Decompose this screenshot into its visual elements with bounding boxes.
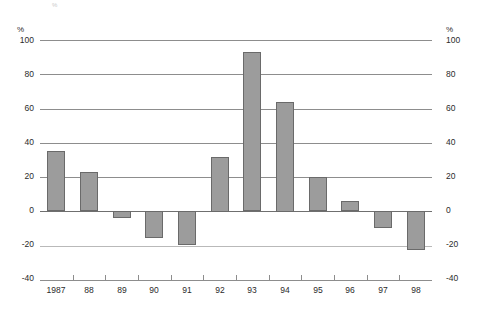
y-tick-label-right-20: 20 (446, 172, 455, 181)
bar-94 (276, 102, 294, 212)
y-tick-label-right-40: 40 (446, 138, 455, 147)
x-label-94: 94 (280, 286, 289, 295)
bar-95 (309, 177, 327, 211)
y-tick-label-left-neg40: -40 (0, 274, 34, 283)
x-label-96: 96 (345, 286, 354, 295)
bar-88 (80, 172, 98, 211)
y-tick-label-left-80: 80 (0, 70, 34, 79)
gridline-20 (40, 177, 432, 178)
x-axis-tick (105, 275, 106, 280)
y-tick-label-right-80: 80 (446, 70, 455, 79)
x-label-92: 92 (215, 286, 224, 295)
y-tick-label-left-100: 100 (0, 36, 34, 45)
y-tick-label-right-neg40: -40 (446, 274, 458, 283)
plot-area (40, 40, 432, 280)
x-label-1987: 1987 (47, 286, 66, 295)
bar-93 (243, 52, 261, 211)
y-tick-label-right-100: 100 (446, 36, 460, 45)
x-label-89: 89 (117, 286, 126, 295)
bar-98 (407, 211, 425, 250)
x-axis-tick (334, 275, 335, 280)
x-axis-tick (203, 275, 204, 280)
y-tick-label-right-60: 60 (446, 104, 455, 113)
x-label-95: 95 (313, 286, 322, 295)
gridline-40 (40, 143, 432, 144)
bar-91 (178, 211, 196, 245)
x-axis-tick (171, 275, 172, 280)
bar-97 (374, 211, 392, 228)
x-label-98: 98 (411, 286, 420, 295)
gridline-100 (40, 40, 432, 41)
y-axis-right-unit: % (446, 26, 453, 34)
y-tick-label-right-neg20: -20 (446, 240, 458, 249)
y-axis-right: % 100 80 60 40 20 0 -20 -40 (440, 0, 479, 320)
x-axis-tick (236, 275, 237, 280)
bar-90 (145, 211, 163, 238)
y-axis-left-unit: % (17, 26, 24, 34)
x-label-97: 97 (378, 286, 387, 295)
x-axis-tick (367, 275, 368, 280)
x-axis-tick (269, 275, 270, 280)
x-axis-tick (399, 275, 400, 280)
y-tick-label-left-40: 40 (0, 138, 34, 147)
y-tick-label-left-20: 20 (0, 172, 34, 181)
y-tick-label-left-60: 60 (0, 104, 34, 113)
x-label-91: 91 (182, 286, 191, 295)
x-label-88: 88 (84, 286, 93, 295)
bar-89 (113, 211, 131, 218)
gridline-60 (40, 109, 432, 110)
gridline-80 (40, 74, 432, 75)
bar-92 (211, 157, 229, 212)
y-tick-label-left-0: 0 (0, 206, 34, 215)
y-tick-label-left-neg20: -20 (0, 240, 34, 249)
x-label-93: 93 (247, 286, 256, 295)
x-axis-tick (73, 275, 74, 280)
x-axis-category-labels: 19878889909192939495969798 (40, 286, 432, 300)
x-axis-tick (301, 275, 302, 280)
y-axis-left: % 100 80 60 40 20 0 -20 -40 (0, 0, 34, 320)
bar-1987 (47, 151, 65, 211)
y-tick-label-right-0: 0 (446, 206, 451, 215)
x-axis-tick (138, 275, 139, 280)
bar-96 (341, 201, 359, 211)
gridline--20 (40, 246, 432, 247)
gridline--40 (40, 280, 432, 281)
bar-chart: % % 100 80 60 40 20 0 -20 -40 % 100 80 6… (0, 0, 479, 320)
x-label-90: 90 (149, 286, 158, 295)
page-artifact-mark: % (52, 2, 57, 8)
